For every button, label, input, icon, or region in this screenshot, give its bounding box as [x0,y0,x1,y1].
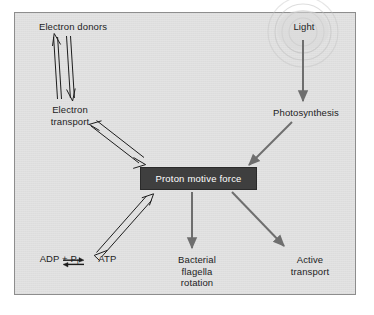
active-transport-line2: transport [272,266,348,278]
node-light[interactable]: Light [278,21,330,33]
adp-pi-label: ADP + P [40,253,77,264]
node-atp-equation[interactable]: ADP + Pi ATP [18,253,138,268]
atp-label: ATP [98,253,116,264]
active-transport-line1: Active [272,254,348,266]
electron-transport-line2: transport [28,116,112,128]
node-bacterial-flagella-rotation[interactable]: Bacterial flagella rotation [158,254,236,289]
electron-donors-label: Electron donors [39,21,107,32]
photosynthesis-label: Photosynthesis [273,107,339,118]
light-label: Light [293,21,314,32]
bacterial-line2: flagella [158,266,236,278]
proton-motive-force-box[interactable]: Proton motive force [140,167,257,190]
electron-transport-line1: Electron [28,104,112,116]
bacterial-line1: Bacterial [158,254,236,266]
node-active-transport[interactable]: Active transport [272,254,348,277]
atp-equation: ADP + Pi ATP [40,253,117,268]
node-photosynthesis[interactable]: Photosynthesis [258,107,354,119]
figure-canvas: Proton motive force Electron donors Elec… [0,0,374,315]
equilibrium-arrow-spacer [79,255,99,264]
node-electron-donors[interactable]: Electron donors [18,21,128,33]
proton-motive-force-label: Proton motive force [155,173,241,184]
node-electron-transport[interactable]: Electron transport [28,104,112,127]
bacterial-line3: rotation [158,277,236,289]
